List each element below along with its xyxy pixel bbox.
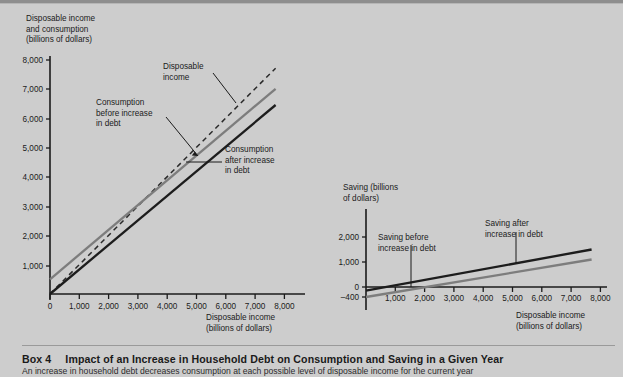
consumption-chart-annotation-disposable-income: Disposable income [163, 62, 206, 82]
svg-text:8,000: 8,000 [274, 302, 295, 311]
consumption-chart-leader-consumption-before [166, 117, 198, 156]
svg-text:1,000: 1,000 [339, 258, 360, 267]
svg-text:2,000: 2,000 [339, 233, 360, 242]
svg-text:7,000: 7,000 [23, 85, 44, 94]
svg-text:3,000: 3,000 [23, 203, 44, 212]
figure-root: Disposable income and consumption (billi… [0, 0, 623, 377]
svg-text:2,000: 2,000 [23, 232, 44, 241]
caption-body: An increase in household debt decreases … [0, 366, 623, 377]
svg-text:4,000: 4,000 [157, 302, 178, 311]
consumption-chart-xlabel: Disposable income (billions of dollars) [206, 313, 277, 333]
svg-text:3,000: 3,000 [444, 294, 465, 303]
consumption-chart-series-consumption-before [50, 89, 276, 279]
saving-chart-series-saving-after [366, 250, 592, 291]
svg-text:4,000: 4,000 [23, 173, 44, 182]
svg-text:7,000: 7,000 [561, 294, 582, 303]
caption-title-row: Box 4 Impact of an Increase in Household… [0, 348, 623, 366]
caption-title: Impact of an Increase in Household Debt … [65, 353, 503, 365]
saving-chart-xlabel: Disposable income (billions of dollars) [516, 311, 587, 331]
saving-chart-annotation-saving-after: Saving after increase in debt [485, 219, 544, 239]
consumption-chart-series-consumption-after [50, 105, 276, 294]
caption-box-number: Box 4 [22, 353, 51, 365]
svg-text:6,000: 6,000 [532, 294, 553, 303]
svg-text:2,000: 2,000 [414, 294, 435, 303]
consumption-chart-y-ticklabels: 8,000 7,000 6,000 5,000 4,000 3,000 2,00… [23, 56, 44, 271]
consumption-chart-series-disposable-income [50, 68, 276, 294]
svg-text:5,000: 5,000 [23, 144, 44, 153]
caption-block: Box 4 Impact of an Increase in Household… [0, 345, 623, 377]
caption-divider [22, 345, 615, 346]
consumption-chart-leader-disposable-income [213, 73, 236, 103]
svg-text:6,000: 6,000 [23, 115, 44, 124]
svg-text:7,000: 7,000 [245, 302, 266, 311]
svg-text:8,000: 8,000 [23, 56, 44, 65]
consumption-chart-ylabel: Disposable income and consumption (billi… [26, 14, 97, 44]
svg-text:–400: –400 [341, 293, 360, 302]
saving-chart-ylabel: Saving (billions of dollars) [343, 183, 400, 203]
saving-chart-annotation-saving-before: Saving before increase in debt [378, 233, 437, 253]
svg-text:4,000: 4,000 [473, 294, 494, 303]
svg-text:5,000: 5,000 [186, 302, 207, 311]
svg-text:1,000: 1,000 [23, 262, 44, 271]
svg-text:0: 0 [354, 283, 359, 292]
svg-text:6,000: 6,000 [216, 302, 237, 311]
saving-chart-x-ticklabels: 1,000 2,000 3,000 4,000 5,000 6,000 7,00… [385, 294, 611, 303]
consumption-chart-annotation-consumption-after: Consumption after increase in debt [225, 145, 277, 175]
svg-text:1,000: 1,000 [385, 294, 406, 303]
svg-text:3,000: 3,000 [128, 302, 149, 311]
consumption-chart-x-ticklabels: 0 1,000 2,000 3,000 4,000 5,000 6,000 7,… [48, 302, 295, 311]
consumption-chart: Disposable income and consumption (billi… [0, 0, 623, 377]
svg-text:8,000: 8,000 [590, 294, 611, 303]
svg-text:1,000: 1,000 [69, 302, 90, 311]
svg-text:2,000: 2,000 [98, 302, 119, 311]
saving-chart-y-ticklabels: 2,000 1,000 0 –400 [339, 233, 360, 302]
consumption-chart-annotation-consumption-before: Consumption before increase in debt [96, 98, 155, 128]
saving-chart-series-saving-before [366, 260, 592, 298]
svg-text:0: 0 [48, 302, 53, 311]
svg-text:5,000: 5,000 [502, 294, 523, 303]
